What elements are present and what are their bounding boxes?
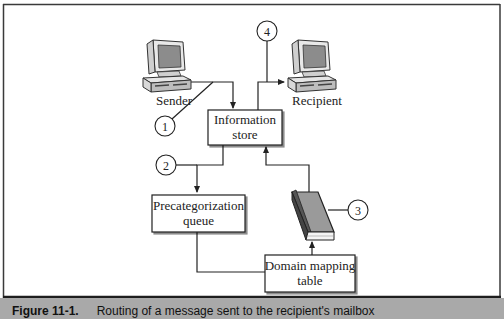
edge-store-to-recipient: [258, 82, 284, 110]
step-2-label: 2: [163, 159, 169, 173]
diagram-canvas: Sender Recipient Information store Preca…: [0, 0, 504, 319]
figure-number: Figure 11-1.: [12, 304, 79, 318]
domain-mapping-table-label-line2: table: [297, 273, 322, 288]
edge-store-to-queue: [197, 145, 223, 192]
figure-caption-bar: Figure 11-1.Routing of a message sent to…: [0, 298, 504, 319]
directory-book-icon: [292, 190, 334, 240]
recipient-computer-icon: [288, 40, 336, 92]
recipient-label: Recipient: [292, 93, 342, 108]
information-store-label-line2: store: [232, 127, 258, 142]
step-4-label: 4: [264, 25, 270, 39]
step-4-marker: 4: [257, 21, 277, 41]
edge-queue-to-domain-table: [197, 232, 265, 272]
step-2-marker: 2: [156, 155, 176, 175]
sender-label: Sender: [156, 93, 193, 108]
information-store-node: Information store: [208, 110, 282, 145]
edge-directory-to-store: [266, 147, 309, 192]
precategorization-queue-node: Precategorization queue: [152, 195, 245, 232]
domain-mapping-table-node: Domain mapping table: [265, 255, 356, 292]
precategorization-queue-label-line1: Precategorization: [153, 198, 244, 213]
step-3-marker: 3: [348, 200, 368, 220]
information-store-label-line1: Information: [214, 112, 277, 127]
precategorization-queue-label-line2: queue: [183, 213, 214, 228]
step-1-marker: 1: [155, 116, 175, 136]
edge-sender-to-store: [190, 82, 233, 108]
sender-computer-icon: [143, 40, 191, 92]
figure-border: [3, 4, 501, 298]
step-3-label: 3: [355, 204, 361, 218]
step-1-label: 1: [162, 120, 168, 134]
domain-mapping-table-label-line1: Domain mapping: [265, 258, 356, 273]
figure-caption-text: Routing of a message sent to the recipie…: [97, 304, 375, 318]
